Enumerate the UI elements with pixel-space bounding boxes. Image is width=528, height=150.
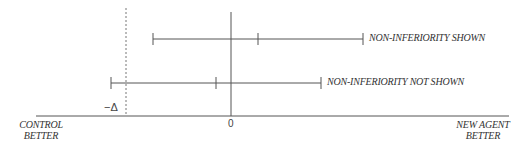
- interval-shown-label: NON-INFERIORITY SHOWN: [369, 32, 485, 43]
- interval-not-shown-label: NON-INFERIORITY NOT SHOWN: [327, 76, 464, 87]
- control-better-label: CONTROL BETTER: [16, 119, 66, 141]
- control-better-line2: BETTER: [16, 130, 66, 141]
- interval-not-shown: [111, 77, 321, 89]
- margin-label: −Δ: [104, 101, 118, 113]
- new-agent-better-label: NEW AGENT BETTER: [452, 119, 514, 141]
- new-agent-better-line2: BETTER: [452, 130, 514, 141]
- interval-shown: [153, 33, 363, 45]
- diagram-canvas: [0, 0, 528, 150]
- zero-label: 0: [228, 118, 234, 129]
- new-agent-better-line1: NEW AGENT: [452, 119, 514, 130]
- control-better-line1: CONTROL: [16, 119, 66, 130]
- non-inferiority-diagram: NON-INFERIORITY SHOWN NON-INFERIORITY NO…: [0, 0, 528, 150]
